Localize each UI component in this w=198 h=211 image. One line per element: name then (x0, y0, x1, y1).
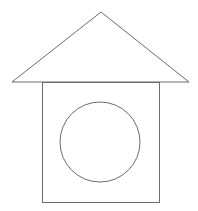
round-window-circle (60, 102, 140, 182)
roof-triangle (12, 12, 189, 82)
house-diagram (0, 0, 198, 211)
